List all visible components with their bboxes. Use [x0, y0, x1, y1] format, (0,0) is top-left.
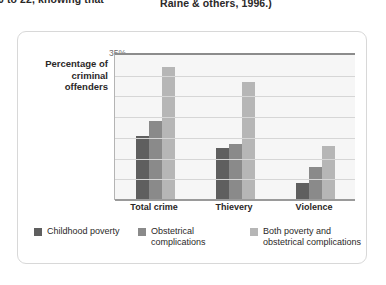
x-axis-baseline	[115, 199, 355, 201]
gridline	[115, 76, 355, 77]
surrounding-page-text: 0 to 22, knowing that Raine & others, 19…	[0, 0, 386, 22]
legend-swatch-icon	[138, 228, 146, 236]
plot-area	[114, 53, 355, 200]
legend-item: Childhood poverty	[34, 226, 126, 237]
legend-swatch-icon	[250, 228, 258, 236]
y-axis-title: Percentage of criminal offenders	[40, 58, 108, 93]
legend-label: Both poverty and obstetrical complicatio…	[263, 226, 366, 248]
bar	[136, 136, 149, 200]
bar-group	[275, 55, 355, 200]
legend-item: Obstetrical complications	[138, 226, 238, 248]
bar	[229, 144, 242, 200]
bar	[296, 183, 309, 200]
legend-label: Childhood poverty	[47, 226, 120, 237]
x-axis-label: Total crime	[114, 202, 194, 212]
figure-card: Percentage of criminal offenders 35%3025…	[17, 31, 367, 264]
bar	[322, 146, 335, 200]
legend-swatch-icon	[34, 228, 42, 236]
bar-group	[195, 55, 275, 200]
x-axis-label: Violence	[274, 202, 354, 212]
bar-group	[115, 55, 195, 200]
bar-groups	[115, 55, 355, 200]
chart-legend: Childhood povertyObstetrical complicatio…	[18, 224, 368, 264]
page-text-right-fragment: Raine & others, 1996.)	[160, 0, 272, 9]
bar	[309, 167, 322, 200]
bar	[216, 148, 229, 200]
gridline	[115, 159, 355, 160]
gridline	[115, 179, 355, 180]
x-axis-category-labels: Total crimeThieveryViolence	[114, 202, 354, 212]
bar-chart: Percentage of criminal offenders 35%3025…	[18, 32, 368, 212]
bar	[149, 121, 162, 200]
gridline	[115, 96, 355, 97]
legend-label: Obstetrical complications	[151, 226, 238, 248]
page-text-left-fragment: 0 to 22, knowing that	[0, 0, 104, 5]
gridline	[115, 117, 355, 118]
bar	[242, 82, 255, 200]
gridline	[115, 138, 355, 139]
x-axis-label: Thievery	[194, 202, 274, 212]
legend-item: Both poverty and obstetrical complicatio…	[250, 226, 366, 248]
